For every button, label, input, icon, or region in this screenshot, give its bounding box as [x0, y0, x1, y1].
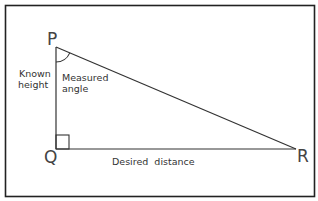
- vertex-label-p: P: [47, 29, 57, 49]
- measured-angle-label-line2: angle: [62, 83, 89, 94]
- desired-distance-label: Desired distance: [112, 156, 195, 167]
- triangle-diagram: P Q R Known height Measured angle Desire…: [0, 0, 318, 201]
- known-height-label-line1: Known: [19, 68, 51, 79]
- known-height-label-line2: height: [18, 79, 49, 90]
- vertex-label-q: Q: [44, 147, 57, 167]
- measured-angle-label-line1: Measured: [62, 72, 108, 83]
- vertex-label-r: R: [297, 146, 309, 166]
